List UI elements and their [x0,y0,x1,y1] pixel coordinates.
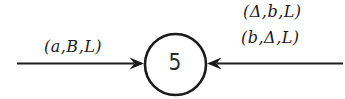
diagram-canvas: (a,B,L) (Δ,b,L) (b,Δ,L) 5 [0,0,345,99]
left-transition-label: (a,B,L) [44,39,102,55]
right-transition-label-top: (Δ,b,L) [243,4,302,20]
state-label: 5 [169,51,182,74]
right-transition-label-bottom: (b,Δ,L) [241,30,300,46]
